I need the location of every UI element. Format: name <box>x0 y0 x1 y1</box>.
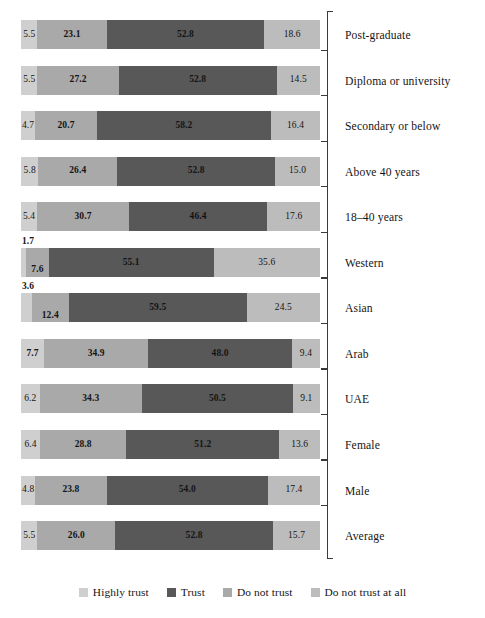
stacked-bar[interactable]: 5.526.052.815.7 <box>21 521 320 550</box>
category-label: Above 40 years <box>345 166 420 179</box>
segment-value-label: 6.4 <box>24 440 36 450</box>
chart-row: 5.523.152.818.6Post-graduate <box>0 11 485 58</box>
bar-wrapper: 4.720.758.216.4 <box>21 111 320 140</box>
bar-segment[interactable]: 23.8 <box>35 476 106 505</box>
bar-segment[interactable]: 26.0 <box>37 521 115 550</box>
bar-segment[interactable]: 14.5 <box>277 66 320 95</box>
bar-segment[interactable]: 6.4 <box>21 430 40 459</box>
stacked-bar[interactable]: 6.428.851.213.6 <box>21 430 320 459</box>
bar-segment[interactable]: 34.9 <box>44 339 148 368</box>
stacked-bar[interactable]: 4.823.854.017.4 <box>21 476 320 505</box>
segment-value-label: 16.4 <box>287 121 304 131</box>
bar-segment[interactable]: 52.8 <box>107 20 265 49</box>
axis-tick <box>321 459 327 460</box>
bar-segment[interactable]: 51.2 <box>126 430 279 459</box>
axis-tick <box>321 323 327 324</box>
legend-item[interactable]: Highly trust <box>79 586 149 598</box>
bar-segment[interactable]: 35.6 <box>214 248 320 277</box>
bar-segment[interactable]: 52.8 <box>119 66 277 95</box>
bar-segment[interactable]: 18.6 <box>264 20 320 49</box>
chart-row: 1.77.655.135.6Western <box>0 239 485 286</box>
bar-segment[interactable]: 4.8 <box>21 476 35 505</box>
segment-value-label: 5.5 <box>23 30 35 40</box>
bar-segment[interactable]: 50.5 <box>142 384 293 413</box>
bar-segment[interactable]: 12.4 <box>32 293 69 322</box>
bar-segment[interactable]: 54.0 <box>107 476 268 505</box>
segment-value-label: 52.8 <box>188 166 205 176</box>
category-label: 18–40 years <box>345 211 403 224</box>
category-label: Arab <box>345 348 369 361</box>
stacked-bar[interactable]: 3.612.459.524.5 <box>21 293 320 322</box>
axis-cap-bottom <box>327 558 333 559</box>
legend-item[interactable]: Trust <box>167 586 205 598</box>
bar-segment[interactable]: 7.6 <box>26 248 49 277</box>
bar-segment[interactable]: 6.2 <box>21 384 40 413</box>
bar-segment[interactable]: 27.2 <box>37 66 118 95</box>
bar-segment[interactable]: 16.4 <box>271 111 320 140</box>
bar-segment[interactable]: 28.8 <box>40 430 126 459</box>
legend-label: Trust <box>181 586 205 598</box>
stacked-bar[interactable]: 5.826.452.815.0 <box>21 157 320 186</box>
stacked-bar[interactable]: 5.430.746.417.6 <box>21 202 320 231</box>
segment-value-label: 15.7 <box>288 531 305 541</box>
bar-segment[interactable]: 7.7 <box>21 339 44 368</box>
chart-row: 5.526.052.815.7Average <box>0 512 485 559</box>
stacked-bar[interactable]: 5.527.252.814.5 <box>21 66 320 95</box>
bar-wrapper: 4.823.854.017.4 <box>21 476 320 505</box>
segment-value-label: 12.4 <box>42 311 59 321</box>
bar-wrapper: 5.826.452.815.0 <box>21 157 320 186</box>
segment-value-label: 9.1 <box>300 394 312 404</box>
bar-segment[interactable]: 9.4 <box>292 339 320 368</box>
bar-segment[interactable]: 3.6 <box>21 293 32 322</box>
bar-segment[interactable]: 4.7 <box>21 111 35 140</box>
segment-value-label: 52.8 <box>177 30 194 40</box>
bar-segment[interactable]: 5.5 <box>21 66 37 95</box>
bar-segment[interactable]: 48.0 <box>148 339 292 368</box>
category-label: Female <box>345 439 380 452</box>
bar-segment[interactable]: 5.5 <box>21 20 37 49</box>
chart-row: 7.734.948.09.4Arab <box>0 330 485 377</box>
stacked-bar[interactable]: 6.234.350.59.1 <box>21 384 320 413</box>
bar-segment[interactable]: 24.5 <box>247 293 320 322</box>
stacked-bar[interactable]: 4.720.758.216.4 <box>21 111 320 140</box>
bar-segment[interactable]: 5.8 <box>21 157 38 186</box>
legend-label: Do not trust <box>237 586 293 598</box>
bar-segment[interactable]: 59.5 <box>69 293 247 322</box>
bar-segment[interactable]: 15.0 <box>275 157 320 186</box>
bar-segment[interactable]: 15.7 <box>273 521 320 550</box>
category-axis-line <box>327 11 328 559</box>
segment-value-label: 27.2 <box>70 75 87 85</box>
bar-segment[interactable]: 5.4 <box>21 202 37 231</box>
chart-row: 4.720.758.216.4Secondary or below <box>0 102 485 149</box>
bar-wrapper: 5.430.746.417.6 <box>21 202 320 231</box>
bar-segment[interactable]: 52.8 <box>117 157 275 186</box>
segment-value-label: 50.5 <box>209 394 226 404</box>
bar-segment[interactable]: 52.8 <box>115 521 273 550</box>
segment-value-label: 9.4 <box>300 349 312 359</box>
bar-segment[interactable]: 34.3 <box>40 384 142 413</box>
bar-segment[interactable]: 17.6 <box>267 202 320 231</box>
bar-segment[interactable]: 26.4 <box>38 157 117 186</box>
bar-segment[interactable]: 5.5 <box>21 521 37 550</box>
segment-value-label: 55.1 <box>123 258 140 268</box>
segment-value-label: 48.0 <box>212 349 229 359</box>
bar-wrapper: 1.77.655.135.6 <box>21 248 320 277</box>
axis-tick <box>321 141 327 142</box>
legend-item[interactable]: Do not trust at all <box>311 586 407 598</box>
stacked-bar[interactable]: 5.523.152.818.6 <box>21 20 320 49</box>
bar-segment[interactable]: 20.7 <box>35 111 97 140</box>
axis-tick <box>321 186 327 187</box>
stacked-bar[interactable]: 7.734.948.09.4 <box>21 339 320 368</box>
bar-segment[interactable]: 13.6 <box>279 430 320 459</box>
segment-value-label: 5.5 <box>23 531 35 541</box>
bar-segment[interactable]: 58.2 <box>97 111 271 140</box>
stacked-bar[interactable]: 1.77.655.135.6 <box>21 248 320 277</box>
bar-segment[interactable]: 30.7 <box>37 202 129 231</box>
bar-segment[interactable]: 23.1 <box>37 20 106 49</box>
bar-segment[interactable]: 46.4 <box>129 202 268 231</box>
axis-tick <box>321 232 327 233</box>
legend-item[interactable]: Do not trust <box>223 586 293 598</box>
bar-segment[interactable]: 55.1 <box>49 248 214 277</box>
bar-segment[interactable]: 9.1 <box>293 384 320 413</box>
bar-segment[interactable]: 17.4 <box>268 476 320 505</box>
